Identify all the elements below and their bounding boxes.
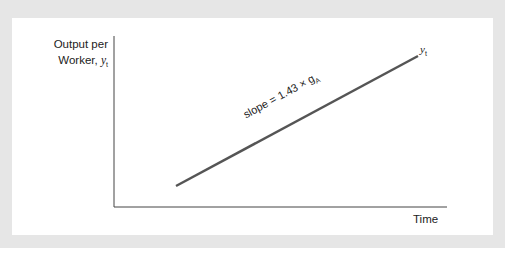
y-label-line1: Output per — [18, 36, 108, 52]
output-line — [176, 56, 418, 186]
y-label-line2: Worker, yt — [18, 52, 108, 73]
line-end-label: yt — [420, 43, 427, 57]
y-axis-label: Output per Worker, yt — [18, 36, 108, 73]
x-axis-label: Time — [413, 213, 438, 225]
